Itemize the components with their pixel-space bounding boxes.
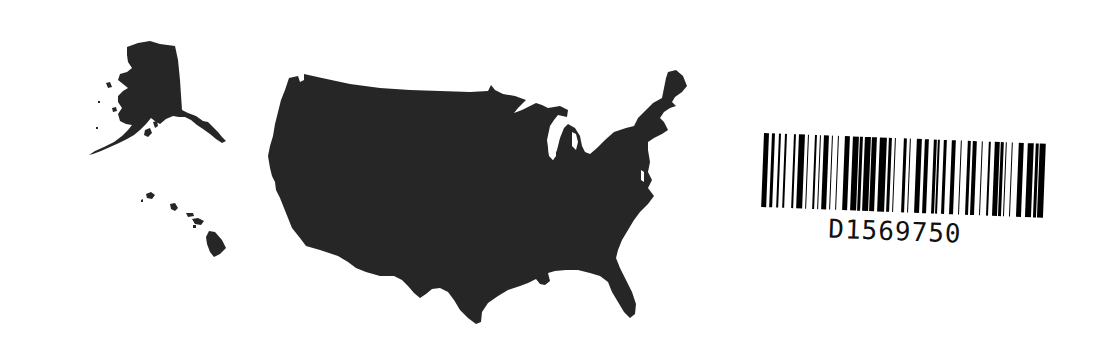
barcode-bars <box>761 133 1046 218</box>
barcode-number: D1569750 <box>828 216 962 247</box>
barcode-label: D1569750 <box>760 133 1048 260</box>
hawaii-silhouette <box>141 192 226 257</box>
alaska-silhouette <box>89 41 226 155</box>
contiguous-us-silhouette <box>268 70 687 324</box>
